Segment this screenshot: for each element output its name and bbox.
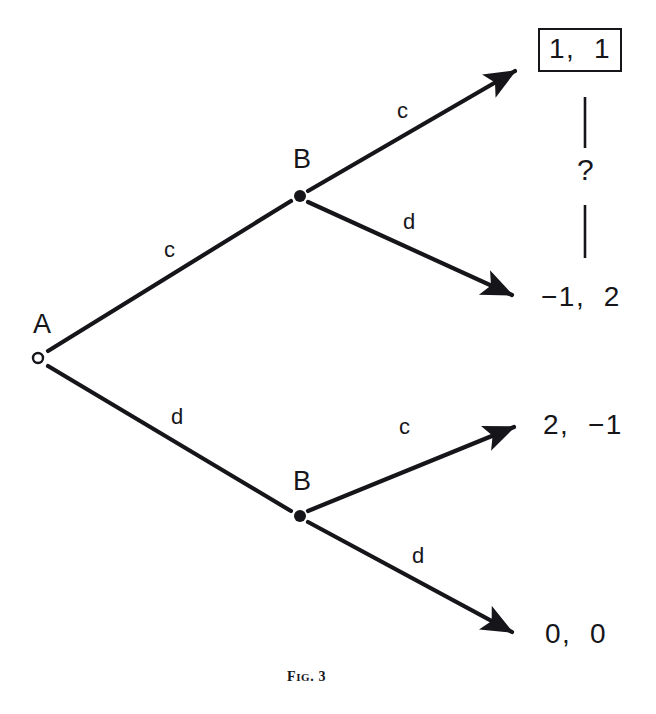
node-a-open-circle	[33, 353, 43, 363]
edge-a-to-b-lower	[48, 366, 291, 511]
node-label-a: A	[33, 311, 52, 338]
figure-caption-suffix: . 3	[310, 669, 326, 684]
edge-b-lower-to-payoff-dd	[308, 522, 512, 632]
payoff-cd: −1, 2	[541, 283, 621, 311]
tree-edges-canvas: B (upper) --> B (lower) --> (1,1) --> (-…	[0, 0, 656, 714]
edge-label-a-c: c	[164, 239, 175, 261]
edge-b-lower-to-payoff-dc	[308, 427, 514, 511]
edge-a-to-b-upper	[48, 201, 291, 351]
figure-caption-smallcaps: IG	[296, 671, 310, 683]
figure-caption-prefix: F	[287, 669, 296, 684]
payoff-cc-boxed: 1, 1	[538, 28, 622, 72]
node-b-lower-dot	[294, 510, 306, 522]
figure-caption: FIG. 3	[287, 670, 326, 684]
node-label-b-lower: B	[293, 468, 312, 495]
edge-label-a-d: d	[171, 406, 183, 428]
edge-b-upper-to-payoff-cc	[308, 71, 515, 191]
edge-label-b-upper-c: c	[397, 100, 408, 122]
edge-label-b-lower-d: d	[412, 545, 424, 567]
node-label-b-upper: B	[293, 146, 312, 173]
edge-label-b-lower-c: c	[399, 416, 410, 438]
edge-label-b-upper-d: d	[403, 211, 415, 233]
payoff-dd: 0, 0	[545, 620, 607, 648]
question-mark-annotation: ?	[577, 155, 594, 185]
node-b-upper-dot	[294, 190, 306, 202]
payoff-dc: 2, −1	[543, 411, 623, 439]
game-tree-figure: B (upper) --> B (lower) --> (1,1) --> (-…	[0, 0, 656, 714]
